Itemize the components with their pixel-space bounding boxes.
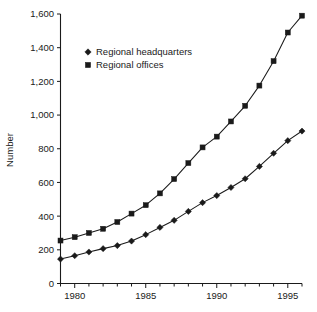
data-point-square	[58, 238, 63, 243]
series-1	[57, 128, 305, 262]
data-point-diamond	[114, 243, 120, 249]
y-axis-tick-labels: 02004006008001,0001,2001,4001,600	[30, 8, 54, 289]
data-point-diamond	[85, 49, 91, 55]
y-tick-label: 1,000	[30, 109, 54, 120]
data-point-diamond	[128, 238, 134, 244]
x-tick-label: 1995	[277, 290, 298, 301]
y-tick-label: 1,400	[30, 42, 54, 53]
data-point-diamond	[157, 224, 163, 230]
data-point-square	[271, 59, 276, 64]
x-tick-label: 1990	[206, 290, 227, 301]
y-tick-label: 200	[38, 244, 54, 255]
data-point-diamond	[228, 184, 234, 190]
data-point-square	[257, 83, 262, 88]
y-axis-title: Number	[4, 133, 15, 167]
data-point-diamond	[214, 193, 220, 199]
data-point-diamond	[72, 253, 78, 259]
y-tick-label: 600	[38, 177, 54, 188]
data-point-square	[86, 230, 91, 235]
x-tick-label: 1985	[135, 290, 156, 301]
data-point-square	[101, 226, 106, 231]
data-point-square	[129, 211, 134, 216]
data-point-square	[200, 145, 205, 150]
data-point-square	[85, 62, 90, 67]
y-tick-label: 1,200	[30, 76, 54, 87]
data-point-square	[300, 13, 305, 18]
data-point-square	[214, 134, 219, 139]
y-tick-label: 400	[38, 211, 54, 222]
y-tick-label: 1,600	[30, 8, 54, 19]
series-line	[61, 131, 303, 259]
data-point-square	[143, 203, 148, 208]
data-point-diamond	[86, 249, 92, 255]
data-point-diamond	[143, 232, 149, 238]
data-point-square	[186, 161, 191, 166]
data-point-square	[285, 30, 290, 35]
chart-container: 02004006008001,0001,2001,4001,600 198019…	[0, 0, 317, 312]
data-point-square	[228, 119, 233, 124]
data-point-square	[72, 235, 77, 240]
chart-legend: Regional headquartersRegional offices	[85, 46, 193, 70]
data-point-square	[172, 177, 177, 182]
data-point-diamond	[299, 128, 305, 134]
data-point-diamond	[57, 256, 63, 262]
data-point-diamond	[100, 246, 106, 252]
x-tick-label: 1980	[64, 290, 85, 301]
line-chart: 02004006008001,0001,2001,4001,600 198019…	[0, 0, 317, 312]
x-axis-tick-labels: 1980198519901995	[64, 290, 298, 301]
data-point-square	[243, 103, 248, 108]
data-point-diamond	[199, 200, 205, 206]
data-point-square	[115, 220, 120, 225]
x-axis-ticks	[61, 284, 303, 289]
data-point-diamond	[185, 208, 191, 214]
legend-label-2: Regional offices	[96, 59, 164, 70]
y-tick-label: 0	[49, 278, 54, 289]
y-tick-label: 800	[38, 143, 54, 154]
legend-label-1: Regional headquarters	[96, 46, 192, 57]
data-point-diamond	[171, 217, 177, 223]
data-point-square	[157, 191, 162, 196]
